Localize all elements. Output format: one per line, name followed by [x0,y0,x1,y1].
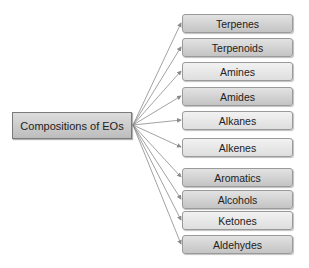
child-label: Terpenoids [212,42,263,54]
child-node-terpenes: Terpenes [182,14,293,33]
child-node-alcohols: Alcohols [182,190,293,209]
child-label: Alcohols [218,194,258,206]
child-label: Amides [220,91,255,103]
child-node-terpenoids: Terpenoids [182,38,293,57]
child-node-ketones: Ketones [182,211,293,230]
root-node: Compositions of EOs [12,112,132,139]
child-label: Alkenes [219,142,256,154]
child-label: Aromatics [214,172,261,184]
child-node-aldehydes: Aldehydes [182,235,293,254]
child-label: Alkanes [219,115,256,127]
child-node-aromatics: Aromatics [182,168,293,187]
child-node-amides: Amides [182,87,293,106]
root-label: Compositions of EOs [20,120,123,132]
child-label: Terpenes [216,18,259,30]
child-label: Ketones [218,215,257,227]
child-node-amines: Amines [182,62,293,81]
child-label: Amines [220,66,255,78]
child-label: Aldehydes [213,239,262,251]
child-node-alkenes: Alkenes [182,138,293,157]
child-node-alkanes: Alkanes [182,111,293,130]
compositions-diagram: Compositions of EOs TerpenesTerpenoidsAm… [0,0,309,268]
